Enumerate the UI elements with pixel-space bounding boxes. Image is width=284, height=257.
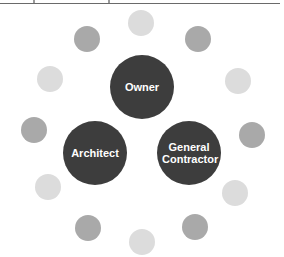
outer-dot [75,215,101,241]
outer-dot [21,117,47,143]
outer-dot [37,66,63,92]
owner-node: Owner [110,55,174,119]
outer-dot [128,10,154,36]
outer-dot [222,180,248,206]
outer-dot [225,68,251,94]
stakeholder-circle-diagram: Owner Architect General Contractor [0,0,284,257]
general-contractor-label: General Contractor [162,141,216,165]
outer-dot [74,26,100,52]
outer-dot [35,174,61,200]
architect-node: Architect [63,121,127,185]
outer-dot [185,26,211,52]
outer-dot [129,229,155,255]
owner-label: Owner [125,81,159,93]
general-contractor-node: General Contractor [157,121,221,185]
architect-label: Architect [71,147,119,159]
outer-dot [239,122,265,148]
outer-dot [182,214,208,240]
